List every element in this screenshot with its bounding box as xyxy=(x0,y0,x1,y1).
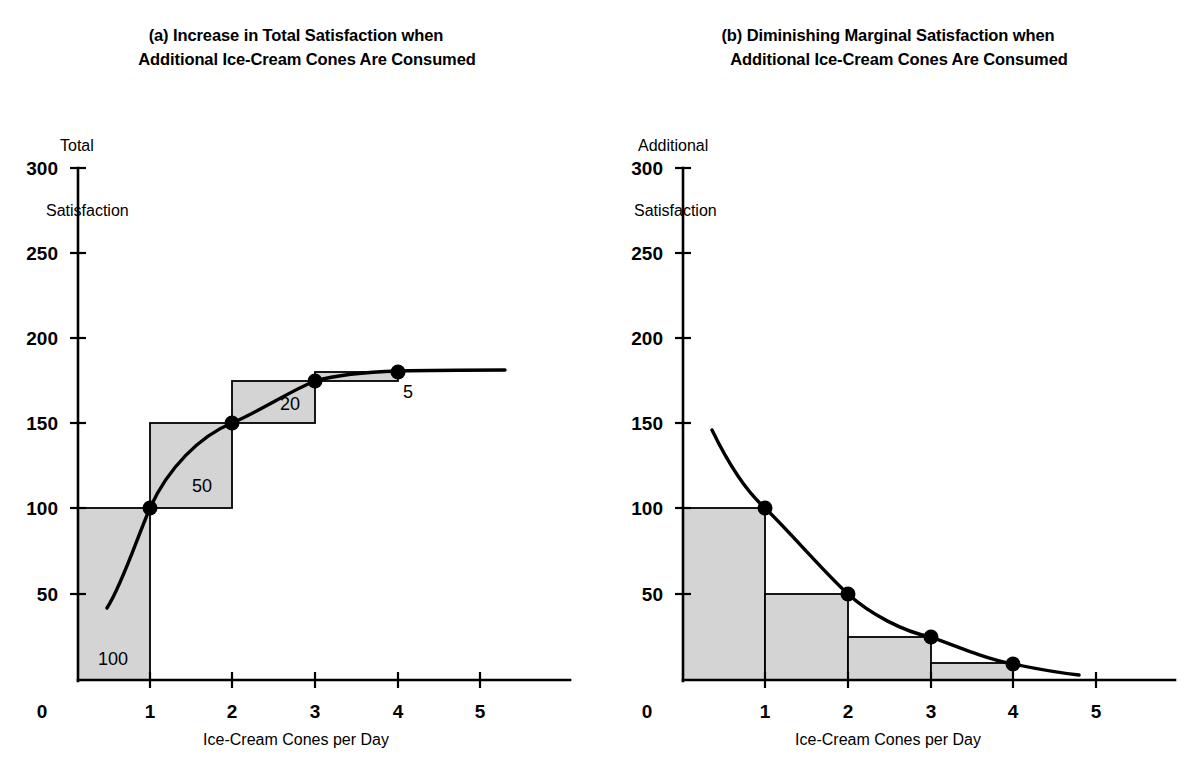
x-tick-label-2: 2 xyxy=(843,701,854,722)
panel-b-x-axis-title: Ice-Cream Cones per Day xyxy=(592,731,1184,749)
data-point-1 xyxy=(143,501,158,516)
block-label-5: 5 xyxy=(403,382,413,402)
y-tick-label-250: 250 xyxy=(631,243,663,264)
x-tick-label-4: 4 xyxy=(1008,701,1019,722)
figure-container: (a) Increase in Total Satisfaction when … xyxy=(0,0,1184,767)
x-tick-label-0: 0 xyxy=(642,701,653,722)
y-tick-label-150: 150 xyxy=(631,413,663,434)
y-tick-label-50: 50 xyxy=(642,584,663,605)
data-point-3 xyxy=(308,374,323,389)
x-tick-label-4: 4 xyxy=(393,701,404,722)
x-tick-label-0: 0 xyxy=(37,701,48,722)
panel-b-plot: 300 250 200 150 100 50 0 1 2 3 4 5 xyxy=(592,0,1184,767)
block-label-100: 100 xyxy=(98,649,128,669)
data-point-2 xyxy=(841,587,856,602)
panel-a-plot: 300 250 200 150 100 50 0 1 2 3 4 5 100 5… xyxy=(0,0,592,767)
data-point-3 xyxy=(924,630,939,645)
x-tick-label-5: 5 xyxy=(1091,701,1102,722)
panel-b: (b) Diminishing Marginal Satisfaction wh… xyxy=(592,0,1184,767)
data-point-4 xyxy=(391,365,406,380)
data-point-1 xyxy=(758,501,773,516)
bar-4 xyxy=(931,663,1013,680)
y-tick-label-300: 300 xyxy=(631,158,663,179)
y-tick-label-200: 200 xyxy=(26,328,58,349)
bar-1 xyxy=(683,508,765,680)
x-tick-label-3: 3 xyxy=(926,701,937,722)
data-point-4 xyxy=(1006,657,1021,672)
y-tick-label-100: 100 xyxy=(26,498,58,519)
y-tick-label-200: 200 xyxy=(631,328,663,349)
y-tick-label-100: 100 xyxy=(631,498,663,519)
x-tick-label-3: 3 xyxy=(310,701,321,722)
y-tick-label-150: 150 xyxy=(26,413,58,434)
bar-2 xyxy=(765,594,848,680)
x-tick-label-1: 1 xyxy=(145,701,156,722)
x-tick-label-5: 5 xyxy=(475,701,486,722)
y-tick-label-50: 50 xyxy=(37,584,58,605)
panel-a: (a) Increase in Total Satisfaction when … xyxy=(0,0,592,767)
block-label-50: 50 xyxy=(192,476,212,496)
y-tick-label-300: 300 xyxy=(26,158,58,179)
panel-a-x-axis-title: Ice-Cream Cones per Day xyxy=(0,731,592,749)
x-tick-label-2: 2 xyxy=(227,701,238,722)
bar-3 xyxy=(848,637,931,680)
x-tick-label-1: 1 xyxy=(760,701,771,722)
data-point-2 xyxy=(225,416,240,431)
y-tick-label-250: 250 xyxy=(26,243,58,264)
